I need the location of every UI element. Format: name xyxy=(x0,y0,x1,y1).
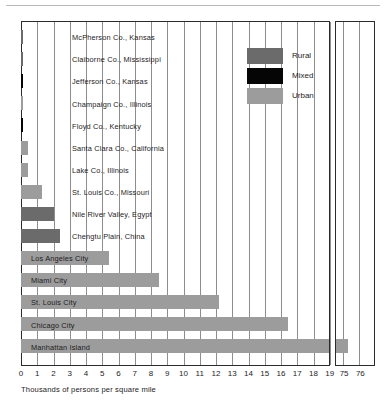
row-label: McPherson Co., Kansas xyxy=(72,33,155,42)
gridline-12 xyxy=(216,22,217,365)
x-tick-5: 5 xyxy=(94,369,110,378)
x-tick-4: 4 xyxy=(78,369,94,378)
bar-break-segment xyxy=(336,339,348,353)
bar xyxy=(21,30,23,44)
legend-swatch-urban xyxy=(247,88,283,104)
row-label: Jefferson Co., Kansas xyxy=(72,77,148,86)
row-label: Claiborne Co., Mississippi xyxy=(72,55,161,64)
gridline-2 xyxy=(54,22,55,365)
row-label: Santa Clara Co., California xyxy=(72,144,164,153)
gridline-9 xyxy=(167,22,168,365)
legend-swatch-mixed xyxy=(247,68,283,84)
row-label: Champaign Co., Illinois xyxy=(72,100,151,109)
row-label: Chengtu Plain, China xyxy=(72,232,145,241)
row-label: Floyd Co., Kentucky xyxy=(72,122,141,131)
x-tick-2: 2 xyxy=(46,369,62,378)
bar xyxy=(21,185,42,199)
gridline-13 xyxy=(232,22,233,365)
chart-break-panel xyxy=(335,21,375,366)
x-tick-17: 17 xyxy=(289,369,305,378)
gridline-11 xyxy=(200,22,201,365)
x-tick-3: 3 xyxy=(62,369,78,378)
legend-label-urban: Urban xyxy=(292,91,314,100)
x-tick-6: 6 xyxy=(111,369,127,378)
gridline-8 xyxy=(151,22,152,365)
row-label: Manhattan Island xyxy=(31,343,90,352)
gridline-10 xyxy=(184,22,185,365)
x-tick-15: 15 xyxy=(257,369,273,378)
gridline-3 xyxy=(70,22,71,365)
row-label: Lake Co., Illinois xyxy=(72,166,129,175)
x-tick-12: 12 xyxy=(208,369,224,378)
bar xyxy=(21,141,28,155)
bar xyxy=(21,229,60,243)
row-label: Chicago City xyxy=(31,321,75,330)
x-tick-76: 76 xyxy=(351,369,369,378)
x-tick-8: 8 xyxy=(143,369,159,378)
x-tick-13: 13 xyxy=(224,369,240,378)
x-tick-14: 14 xyxy=(241,369,257,378)
row-label: Los Angeles City xyxy=(31,254,88,263)
x-tick-11: 11 xyxy=(192,369,208,378)
gridline-19 xyxy=(330,22,331,365)
bar xyxy=(21,118,23,132)
bar xyxy=(21,96,23,110)
x-tick-0: 0 xyxy=(13,369,29,378)
x-tick-9: 9 xyxy=(159,369,175,378)
chart-main-panel xyxy=(21,21,330,366)
row-label: Miami City xyxy=(31,276,67,285)
x-tick-18: 18 xyxy=(306,369,322,378)
row-label: Nile River Valley, Egypt xyxy=(72,210,152,219)
legend-label-mixed: Mixed xyxy=(292,71,313,80)
legend-swatch-rural xyxy=(247,48,283,64)
gridline-76 xyxy=(359,22,360,365)
x-tick-16: 16 xyxy=(273,369,289,378)
legend-label-rural: Rural xyxy=(292,51,311,60)
gridline-75 xyxy=(343,22,344,365)
row-label: St. Louis Co., Missouri xyxy=(72,188,149,197)
bar xyxy=(21,207,54,221)
top-divider-rule xyxy=(6,5,380,6)
bar xyxy=(21,52,23,66)
x-tick-1: 1 xyxy=(29,369,45,378)
x-tick-10: 10 xyxy=(176,369,192,378)
bar xyxy=(21,74,23,88)
x-axis-caption: Thousands of persons per square mile xyxy=(21,385,156,394)
gridline-18 xyxy=(314,22,315,365)
bar xyxy=(21,163,28,177)
row-label: St. Louis City xyxy=(31,298,77,307)
x-tick-7: 7 xyxy=(127,369,143,378)
